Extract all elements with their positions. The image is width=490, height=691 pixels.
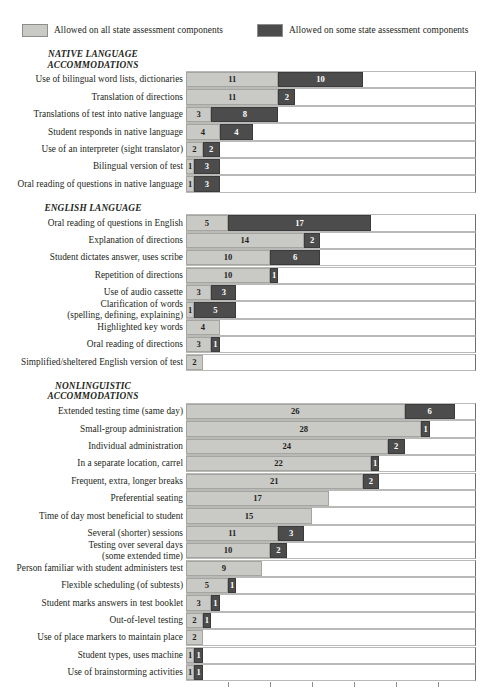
bar-segment-all: 1 bbox=[186, 665, 194, 680]
bar-segment-all: 3 bbox=[186, 107, 211, 122]
bar-value-label: 1 bbox=[188, 668, 192, 677]
bar-segment-some: 1 bbox=[211, 337, 219, 352]
chart-row: Highlighted key words4 bbox=[0, 319, 490, 336]
bar-segment-some: 2 bbox=[363, 474, 380, 489]
bar-track: 15 bbox=[186, 507, 476, 524]
bar-segment-some: 6 bbox=[270, 250, 320, 265]
chart-row: Individual administration242 bbox=[0, 438, 490, 455]
axis-tick bbox=[396, 682, 397, 687]
bar-segment-some: 3 bbox=[278, 526, 303, 541]
category-label: Frequent, extra, longer breaks bbox=[0, 473, 183, 490]
bar-track: 13 bbox=[186, 158, 476, 175]
category-label: Repetition of directions bbox=[0, 267, 183, 284]
bar-segment-all: 10 bbox=[186, 543, 270, 558]
category-label: Use of place markers to maintain place bbox=[0, 629, 183, 646]
bar-value-label: 1 bbox=[196, 668, 200, 677]
chart-row: Frequent, extra, longer breaks212 bbox=[0, 473, 490, 490]
chart-row: Simplified/sheltered English version of … bbox=[0, 354, 490, 371]
bar-value-label: 17 bbox=[253, 494, 262, 503]
bar-value-label: 3 bbox=[196, 288, 200, 297]
bar-segment-all: 22 bbox=[186, 456, 371, 471]
section-heading-line2: ACCOMMODATIONS bbox=[0, 60, 186, 71]
category-label: In a separate location, carrel bbox=[0, 455, 183, 472]
bar-segment-all: 1 bbox=[186, 648, 194, 663]
section-heading-line2: ACCOMMODATIONS bbox=[0, 391, 186, 402]
bar-track: 4 bbox=[186, 319, 476, 336]
bar-segment-all: 5 bbox=[186, 578, 228, 593]
chart-row: Oral reading of directions31 bbox=[0, 336, 490, 353]
bar-segment-all: 24 bbox=[186, 439, 388, 454]
bar-value-label: 4 bbox=[201, 323, 205, 332]
bar-value-label: 5 bbox=[205, 219, 209, 228]
bar-value-label: 21 bbox=[270, 477, 279, 486]
bar-segment-some: 3 bbox=[211, 285, 236, 300]
chart-row: Out-of-level testing21 bbox=[0, 612, 490, 629]
bar-track: 11 bbox=[186, 647, 476, 664]
bar-value-label: 1 bbox=[213, 599, 217, 608]
bar-segment-all: 2 bbox=[186, 613, 203, 628]
bar-segment-some: 1 bbox=[421, 421, 429, 436]
bar-segment-all: 10 bbox=[186, 250, 270, 265]
bar-track: 51 bbox=[186, 577, 476, 594]
chart-row: Flexible scheduling (of subtests)51 bbox=[0, 577, 490, 594]
axis-tick bbox=[312, 682, 313, 687]
chart-legend: Allowed on all state assessment componen… bbox=[0, 24, 490, 42]
bar-value-label: 2 bbox=[192, 633, 196, 642]
bar-value-label: 2 bbox=[394, 442, 398, 451]
chart-row: In a separate location, carrel221 bbox=[0, 455, 490, 472]
bar-value-label: 2 bbox=[192, 358, 196, 367]
chart-row: Preferential seating17 bbox=[0, 490, 490, 507]
bar-value-label: 10 bbox=[224, 271, 233, 280]
category-label: Person familiar with student administers… bbox=[0, 560, 183, 577]
chart-row: Use of an interpreter (sight translator)… bbox=[0, 141, 490, 158]
bar-value-label: 1 bbox=[205, 616, 209, 625]
bar-track: 142 bbox=[186, 232, 476, 249]
bar-track: 44 bbox=[186, 123, 476, 140]
bar-track: 101 bbox=[186, 267, 476, 284]
chart-row: Use of brainstorming activities11 bbox=[0, 664, 490, 681]
bar-value-label: 11 bbox=[228, 75, 236, 84]
category-label: Preferential seating bbox=[0, 490, 183, 507]
bar-track: 21 bbox=[186, 612, 476, 629]
bar-segment-some: 10 bbox=[278, 72, 362, 87]
bar-value-label: 9 bbox=[222, 564, 226, 573]
bar-value-label: 2 bbox=[310, 236, 314, 245]
bar-value-label: 3 bbox=[196, 110, 200, 119]
bar-segment-some: 3 bbox=[194, 176, 219, 191]
bar-value-label: 4 bbox=[234, 128, 238, 137]
bar-value-label: 1 bbox=[373, 459, 377, 468]
bar-value-label: 3 bbox=[222, 288, 226, 297]
bar-segment-some: 2 bbox=[203, 142, 220, 157]
category-label: Clarification of words(spelling, definin… bbox=[0, 301, 183, 318]
bar-track: 15 bbox=[186, 301, 476, 318]
bar-segment-all: 1 bbox=[186, 176, 194, 191]
category-label: Translations of test into native languag… bbox=[0, 106, 183, 123]
bar-segment-all: 1 bbox=[186, 302, 194, 317]
category-label: Use of bilingual word lists, dictionarie… bbox=[0, 71, 183, 88]
bar-track: 281 bbox=[186, 420, 476, 437]
category-label: Oral reading of questions in native lang… bbox=[0, 175, 183, 192]
bar-value-label: 8 bbox=[243, 110, 247, 119]
bar-value-label: 1 bbox=[188, 180, 192, 189]
category-label: Student types, uses machine bbox=[0, 647, 183, 664]
bar-value-label: 2 bbox=[209, 145, 213, 154]
bar-value-label: 10 bbox=[316, 75, 325, 84]
legend-swatch-icon bbox=[22, 24, 48, 37]
chart-row: Use of audio cassette33 bbox=[0, 284, 490, 301]
bar-value-label: 15 bbox=[245, 512, 254, 521]
chart-row: Student responds in native language44 bbox=[0, 123, 490, 140]
section-heading-2: NONLINGUISTICACCOMMODATIONS bbox=[0, 381, 186, 402]
category-label: Use of brainstorming activities bbox=[0, 664, 183, 681]
bar-value-label: 2 bbox=[285, 93, 289, 102]
chart-row: Explanation of directions142 bbox=[0, 232, 490, 249]
bar-segment-all: 14 bbox=[186, 233, 304, 248]
category-label-line: Testing over several days bbox=[88, 540, 183, 551]
category-label: Student dictates answer, uses scribe bbox=[0, 249, 183, 266]
chart-row: Translation of directions112 bbox=[0, 88, 490, 105]
bar-track: 1110 bbox=[186, 71, 476, 88]
section-heading-1: ENGLISH LANGUAGE bbox=[0, 203, 186, 214]
bar-segment-all: 4 bbox=[186, 124, 220, 139]
bar-track: 102 bbox=[186, 542, 476, 559]
chart-row: Extended testing time (same day)266 bbox=[0, 403, 490, 420]
bar-track: 221 bbox=[186, 455, 476, 472]
